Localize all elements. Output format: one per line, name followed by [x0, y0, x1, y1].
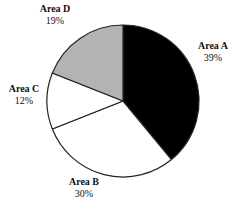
slice-label-area-a: Area A39%: [198, 40, 228, 64]
slice-label-area-d: Area D19%: [40, 3, 71, 27]
slice-percent: 19%: [40, 15, 71, 27]
slice-name: Area A: [198, 40, 228, 52]
slice-name: Area D: [40, 3, 71, 15]
slice-percent: 30%: [69, 188, 99, 200]
slice-name: Area C: [9, 83, 40, 95]
slice-label-area-b: Area B30%: [69, 176, 99, 200]
slice-name: Area B: [69, 176, 99, 188]
slice-percent: 12%: [9, 95, 40, 107]
slice-percent: 39%: [198, 52, 228, 64]
slice-label-area-c: Area C12%: [9, 83, 40, 107]
